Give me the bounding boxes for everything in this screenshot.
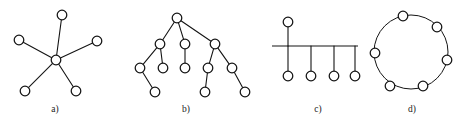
node-a-leaf-right: [92, 36, 102, 46]
edge-b-6: [209, 49, 213, 64]
node-b-child-2: [180, 39, 190, 49]
edge-a-2: [60, 43, 92, 58]
edge-a-0: [57, 20, 62, 55]
edge-b-7: [218, 48, 229, 64]
caption-a: a): [51, 104, 58, 115]
node-b-grand-3: [180, 63, 190, 73]
panel-ring-topology: [370, 11, 452, 91]
panel-bus-topology: [272, 17, 360, 81]
edge-a-3: [28, 63, 52, 87]
node-d-ring-node-5: [385, 81, 395, 91]
panel-tree-topology: [135, 13, 250, 97]
edge-b-4: [161, 49, 163, 63]
node-a-leaf-bottom-left: [20, 86, 30, 96]
edge-b-1: [178, 23, 183, 40]
edge-b-2: [181, 21, 211, 42]
caption-c: c): [314, 104, 321, 115]
node-d-ring-node-6: [370, 48, 380, 58]
node-b-grand-4: [203, 63, 213, 73]
node-b-child-3: [210, 39, 220, 49]
node-d-ring-node-4: [418, 81, 428, 91]
network-topology-figure: a)b)c)d): [0, 0, 469, 125]
edge-b-3: [143, 48, 157, 65]
node-c-bus-node-2: [306, 71, 316, 81]
node-c-bus-node-1: [283, 71, 293, 81]
node-b-root: [172, 13, 182, 23]
node-b-child-1: [155, 39, 165, 49]
node-b-leaf-3: [240, 87, 250, 97]
edge-b-0: [163, 22, 175, 40]
topology-canvas: a)b)c)d): [0, 0, 469, 125]
node-c-bus-node-4: [350, 71, 360, 81]
node-b-grand-5: [227, 63, 237, 73]
node-b-leaf-2: [200, 87, 210, 97]
panel-captions: a)b)c)d): [51, 104, 416, 115]
panel-star-topology: [14, 10, 102, 96]
node-a-center: [51, 55, 61, 65]
edge-a-1: [23, 42, 52, 57]
edge-b-10: [234, 72, 242, 88]
node-d-ring-node-1: [398, 11, 408, 21]
node-b-grand-2: [158, 63, 168, 73]
node-b-grand-1: [135, 63, 145, 73]
node-a-leaf-top: [57, 10, 67, 20]
node-d-ring-node-3: [442, 55, 452, 65]
node-a-leaf-bottom-right: [71, 86, 81, 96]
edge-b-8: [143, 72, 153, 88]
node-c-bus-node-3: [329, 71, 339, 81]
caption-b: b): [182, 104, 190, 115]
node-d-ring-node-2: [432, 22, 442, 32]
node-c-bus-node-top: [283, 17, 293, 27]
caption-d: d): [408, 104, 416, 115]
edge-a-4: [59, 64, 74, 87]
node-b-leaf-1: [150, 87, 160, 97]
node-a-leaf-left: [14, 35, 24, 45]
edge-b-9: [206, 73, 208, 87]
